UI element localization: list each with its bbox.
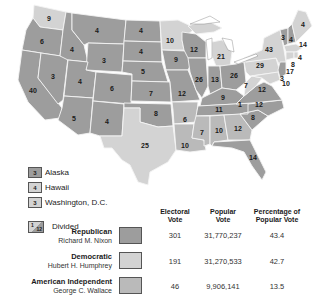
- label-tn: 11: [215, 106, 223, 113]
- label-mt: 4: [95, 27, 99, 34]
- label-nc: 12: [255, 101, 263, 108]
- divided-bottom: 12: [36, 226, 42, 232]
- label-sc: 8: [251, 114, 255, 121]
- label-la: 10: [181, 142, 189, 149]
- label-co: 6: [110, 85, 114, 92]
- popular-republican: 31,770,237: [198, 231, 248, 240]
- label-id: 4: [70, 46, 74, 53]
- swatch-republican: [119, 227, 142, 244]
- party-democratic: Democratic Hubert H. Humphrey: [48, 252, 112, 270]
- header-percentage-line2: Popular Vote: [247, 216, 307, 224]
- label-wi: 12: [190, 46, 198, 53]
- label-ga: 12: [234, 125, 242, 132]
- electoral-democratic: 191: [160, 257, 190, 266]
- party-american-independent: American Independent George C. Wallace: [31, 277, 112, 295]
- label-in: 13: [211, 76, 219, 83]
- label-ri: 4: [298, 54, 302, 61]
- electoral-republican: 301: [160, 231, 190, 240]
- swatch-american-independent: [119, 277, 142, 294]
- label-mo: 12: [178, 90, 186, 97]
- percent-republican: 43.4: [262, 231, 292, 240]
- label-or: 6: [40, 38, 44, 45]
- label-mn: 10: [166, 37, 174, 44]
- candidate-name: Richard M. Nixon: [58, 236, 112, 245]
- label-az: 5: [72, 115, 76, 122]
- hawaii-votes: 4: [28, 182, 42, 193]
- header-electoral-line2: Vote: [155, 216, 195, 224]
- label-nj: 17: [286, 68, 294, 75]
- label-oh: 26: [230, 72, 238, 79]
- label-fl: 14: [249, 154, 257, 161]
- label-me: 4: [301, 21, 305, 28]
- label-vt: 3: [281, 34, 285, 41]
- inset-dc: 3 Washington, D.C.: [28, 196, 107, 209]
- label-ms: 7: [200, 129, 204, 136]
- alaska-votes: 3: [28, 167, 42, 178]
- label-md: 10: [282, 80, 290, 87]
- label-al: 10: [215, 127, 223, 134]
- header-popular-line2: Vote: [203, 216, 243, 224]
- lake-superior: [190, 16, 220, 24]
- label-nh: 4: [289, 36, 293, 43]
- label-ks: 7: [149, 90, 153, 97]
- header-percentage-line1: Percentage of: [247, 208, 307, 216]
- label-il: 26: [195, 76, 203, 83]
- label-tx: 25: [141, 142, 149, 149]
- hawaii-label: Hawaii: [45, 183, 69, 192]
- percent-democratic: 42.7: [262, 257, 292, 266]
- label-wv: 7: [244, 82, 248, 89]
- label-ne: 5: [141, 68, 145, 75]
- inset-alaska: 3 Alaska: [28, 166, 69, 179]
- label-nv: 3: [51, 73, 55, 80]
- label-ct: 8: [291, 61, 295, 68]
- label-wa: 9: [47, 15, 51, 22]
- party-name: Democratic: [48, 252, 112, 261]
- divided-top: 1: [31, 222, 34, 228]
- label-pa: 29: [256, 62, 264, 69]
- header-popular-vote: Popular Vote: [203, 208, 243, 224]
- popular-american-independent: 9,906,141: [198, 282, 248, 291]
- state-ct: [286, 52, 294, 60]
- state-fl: [212, 140, 266, 180]
- popular-democratic: 31,270,533: [198, 257, 248, 266]
- party-republican: Republican Richard M. Nixon: [58, 227, 112, 245]
- party-name: American Independent: [31, 277, 112, 286]
- label-nc-divided: 1: [238, 101, 242, 108]
- label-ia: 9: [174, 56, 178, 63]
- dc-votes: 3: [28, 197, 42, 208]
- swatch-democratic: [119, 252, 142, 269]
- label-mi: 21: [217, 53, 225, 60]
- lake-michigan: [206, 38, 212, 60]
- header-electoral-vote: Electoral Vote: [155, 208, 195, 224]
- label-nd: 4: [139, 27, 143, 34]
- inset-hawaii: 4 Hawaii: [28, 181, 69, 194]
- party-name: Republican: [58, 227, 112, 236]
- label-ma: 14: [299, 41, 307, 48]
- label-ca: 40: [29, 87, 37, 94]
- electoral-american-independent: 46: [160, 282, 190, 291]
- label-ut: 4: [78, 78, 82, 85]
- header-electoral-line1: Electoral: [155, 208, 195, 216]
- candidate-name: George C. Wallace: [31, 286, 112, 295]
- dc-label: Washington, D.C.: [45, 198, 107, 207]
- label-ar: 6: [183, 116, 187, 123]
- label-nm: 4: [105, 118, 109, 125]
- state-wi: [182, 32, 206, 58]
- label-va: 12: [258, 86, 266, 93]
- header-popular-line1: Popular: [203, 208, 243, 216]
- label-sd: 4: [139, 48, 143, 55]
- alaska-label: Alaska: [45, 168, 69, 177]
- label-wy: 3: [102, 57, 106, 64]
- candidate-name: Hubert H. Humphrey: [48, 261, 112, 270]
- divided-swatch: 1 12: [28, 221, 44, 233]
- label-ok: 8: [154, 110, 158, 117]
- label-ky: 9: [221, 94, 225, 101]
- label-ny: 43: [265, 46, 273, 53]
- header-percentage: Percentage of Popular Vote: [247, 208, 307, 224]
- percent-american-independent: 13.5: [262, 282, 292, 291]
- state-mt: [72, 13, 126, 45]
